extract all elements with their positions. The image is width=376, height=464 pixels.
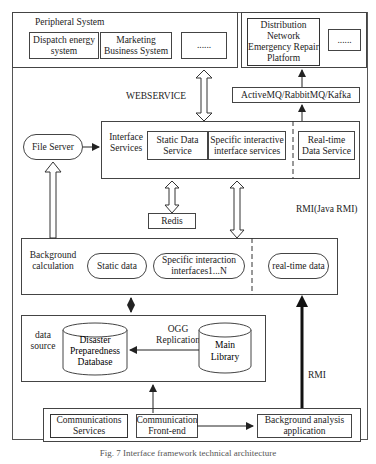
svg-text:Library: Library — [211, 352, 240, 362]
figure-caption: Fig. 7 Interface framework technical arc… — [0, 448, 376, 459]
svg-text:Preparedness: Preparedness — [70, 346, 120, 356]
connector-layer: Disaster Preparedness Database Main Libr… — [0, 0, 376, 464]
svg-text:Main: Main — [215, 340, 235, 350]
svg-text:Disaster: Disaster — [79, 335, 111, 345]
svg-text:Database: Database — [78, 357, 113, 367]
